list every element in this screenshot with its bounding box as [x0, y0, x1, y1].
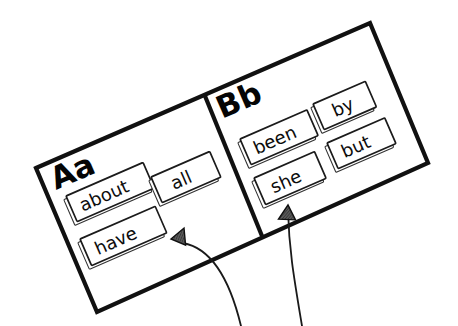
- arrow-to-she-curve: [288, 210, 302, 326]
- illustration-canvas: Aa about have all Bb: [0, 0, 458, 326]
- word-wall-illustration: Aa about have all Bb: [0, 0, 458, 326]
